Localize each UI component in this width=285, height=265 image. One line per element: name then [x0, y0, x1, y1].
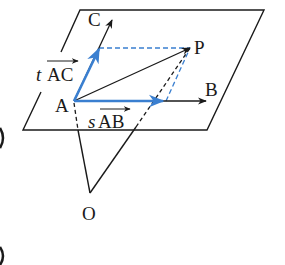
scalar-t: t [36, 64, 42, 85]
diagram-canvas: C P B A O t AC s AB [0, 0, 285, 265]
label-A: A [55, 95, 69, 116]
vector-AC-name: AC [47, 64, 73, 85]
scalar-s: s [88, 111, 95, 132]
vector-plane-diagram: C P B A O t AC s AB [0, 0, 285, 265]
label-sAB: s AB [88, 109, 130, 132]
label-B: B [205, 79, 218, 100]
vector-AB-name: AB [98, 111, 124, 132]
vector-tAC [74, 49, 99, 101]
edge-artifact-bottom [0, 247, 3, 265]
edge-artifact-top [0, 128, 3, 148]
label-C: C [88, 9, 101, 30]
lines-to-O [78, 127, 136, 193]
label-O: O [82, 203, 96, 224]
label-P: P [194, 37, 205, 58]
label-tAC: t AC [36, 61, 78, 85]
parallelogram-guides [99, 48, 190, 101]
